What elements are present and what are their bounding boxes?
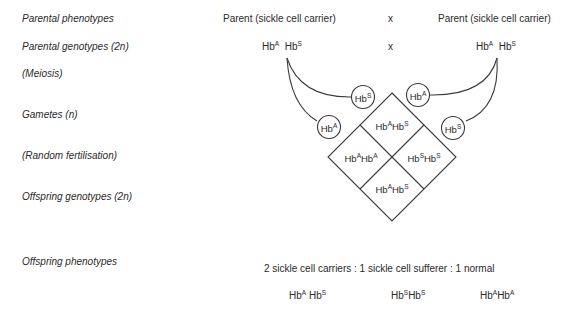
punnett-cell-bottom: HbAHbS	[376, 184, 409, 195]
punnett-cell-top: HbAHbS	[376, 121, 409, 132]
offspring-ratio: 2 sickle cell carriers : 1 sickle cell s…	[264, 263, 494, 274]
right-meiosis-curve-upper	[430, 58, 497, 95]
offspring-genotype-normal: HbAHbA	[480, 290, 514, 301]
left-meiosis-curve-upper	[287, 58, 352, 97]
gamete-right-upper: HbA	[410, 91, 427, 102]
gamete-right-lower: HbS	[445, 124, 462, 135]
punnett-cell-right: HbSHbS	[408, 153, 441, 164]
gamete-left-lower: HbA	[321, 123, 338, 134]
offspring-genotype-carrier: HbA HbS	[289, 290, 326, 301]
punnett-cell-left: HbAHbA	[345, 153, 378, 164]
offspring-genotype-sufferer: HbSHbS	[391, 290, 425, 301]
gamete-left-upper: HbS	[355, 93, 372, 104]
right-meiosis-curve-lower	[466, 58, 497, 121]
